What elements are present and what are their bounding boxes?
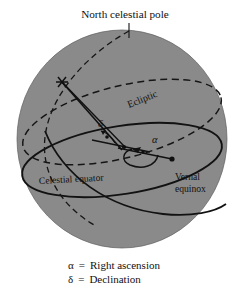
arc-point-marker	[141, 150, 145, 154]
legend-alpha-text: Right ascension	[90, 259, 160, 271]
north-celestial-pole-label: North celestial pole	[81, 8, 169, 20]
legend-row-alpha: α=Right ascension	[68, 259, 160, 271]
legend: α=Right ascension δ=Declination	[68, 259, 160, 285]
arc-point-marker	[105, 135, 109, 139]
alpha-symbol-label: α	[152, 134, 158, 145]
celestial-sphere-diagram: North celestial pole Ecliptic Celestial …	[0, 0, 251, 295]
vernal-equinox-label-line1: Vernal	[175, 171, 200, 182]
legend-alpha-equals: =	[79, 259, 85, 271]
legend-delta-equals: =	[78, 273, 84, 285]
legend-delta-symbol: δ	[68, 273, 73, 285]
vernal-equinox-label-line2: equinox	[175, 183, 206, 194]
legend-alpha-symbol: α	[68, 259, 74, 271]
equator-foot-point	[122, 145, 126, 149]
vernal-equinox-point	[169, 156, 174, 161]
legend-delta-text: Declination	[89, 273, 141, 285]
legend-row-delta: δ=Declination	[68, 273, 141, 285]
